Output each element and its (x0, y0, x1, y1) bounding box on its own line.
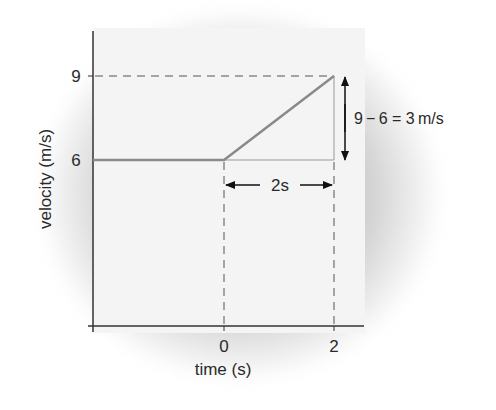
x-tick-2-label: 2 (329, 337, 338, 356)
y-tick-6-label: 6 (71, 151, 80, 170)
y-axis-label: velocity (m/s) (36, 129, 55, 229)
velocity-line (93, 76, 334, 160)
x-axis-label: time (s) (195, 360, 252, 379)
x-tick-0-label: 0 (219, 337, 228, 356)
velocity-time-chart: 9 6 0 2 time (s) velocity (m/s) 9 − 6 = … (0, 0, 496, 410)
delta-v-label: 9 − 6 = 3 m/s (354, 110, 444, 127)
delta-t-label: 2s (271, 176, 289, 195)
y-tick-9-label: 9 (71, 67, 80, 86)
